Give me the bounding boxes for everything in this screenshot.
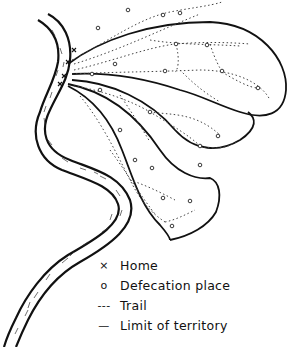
legend-label: Home [120, 256, 158, 276]
trail-symbol-icon: --- [96, 296, 112, 316]
legend-label: Limit of territory [120, 316, 228, 336]
limit-symbol-icon: — [96, 316, 112, 336]
river [4, 14, 131, 347]
defecation-symbol-icon: o [96, 276, 112, 296]
defecation-places [90, 8, 260, 228]
home-symbol-icon: × [96, 256, 112, 276]
legend-label: Defecation place [120, 276, 230, 296]
legend-label: Trail [120, 296, 147, 316]
